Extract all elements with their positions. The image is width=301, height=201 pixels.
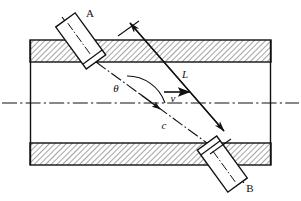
figure-canvas: A B L θ v c — [0, 0, 301, 201]
label-transducer-b: B — [246, 182, 253, 194]
label-sound-speed: c — [162, 119, 167, 131]
technical-diagram: A B L θ v c — [0, 0, 301, 201]
label-transducer-a: A — [86, 7, 94, 19]
label-flow-velocity: v — [171, 92, 176, 104]
label-angle-theta: θ — [113, 82, 119, 94]
pipe-top-wall — [30, 40, 271, 62]
label-path-length: L — [181, 68, 188, 80]
